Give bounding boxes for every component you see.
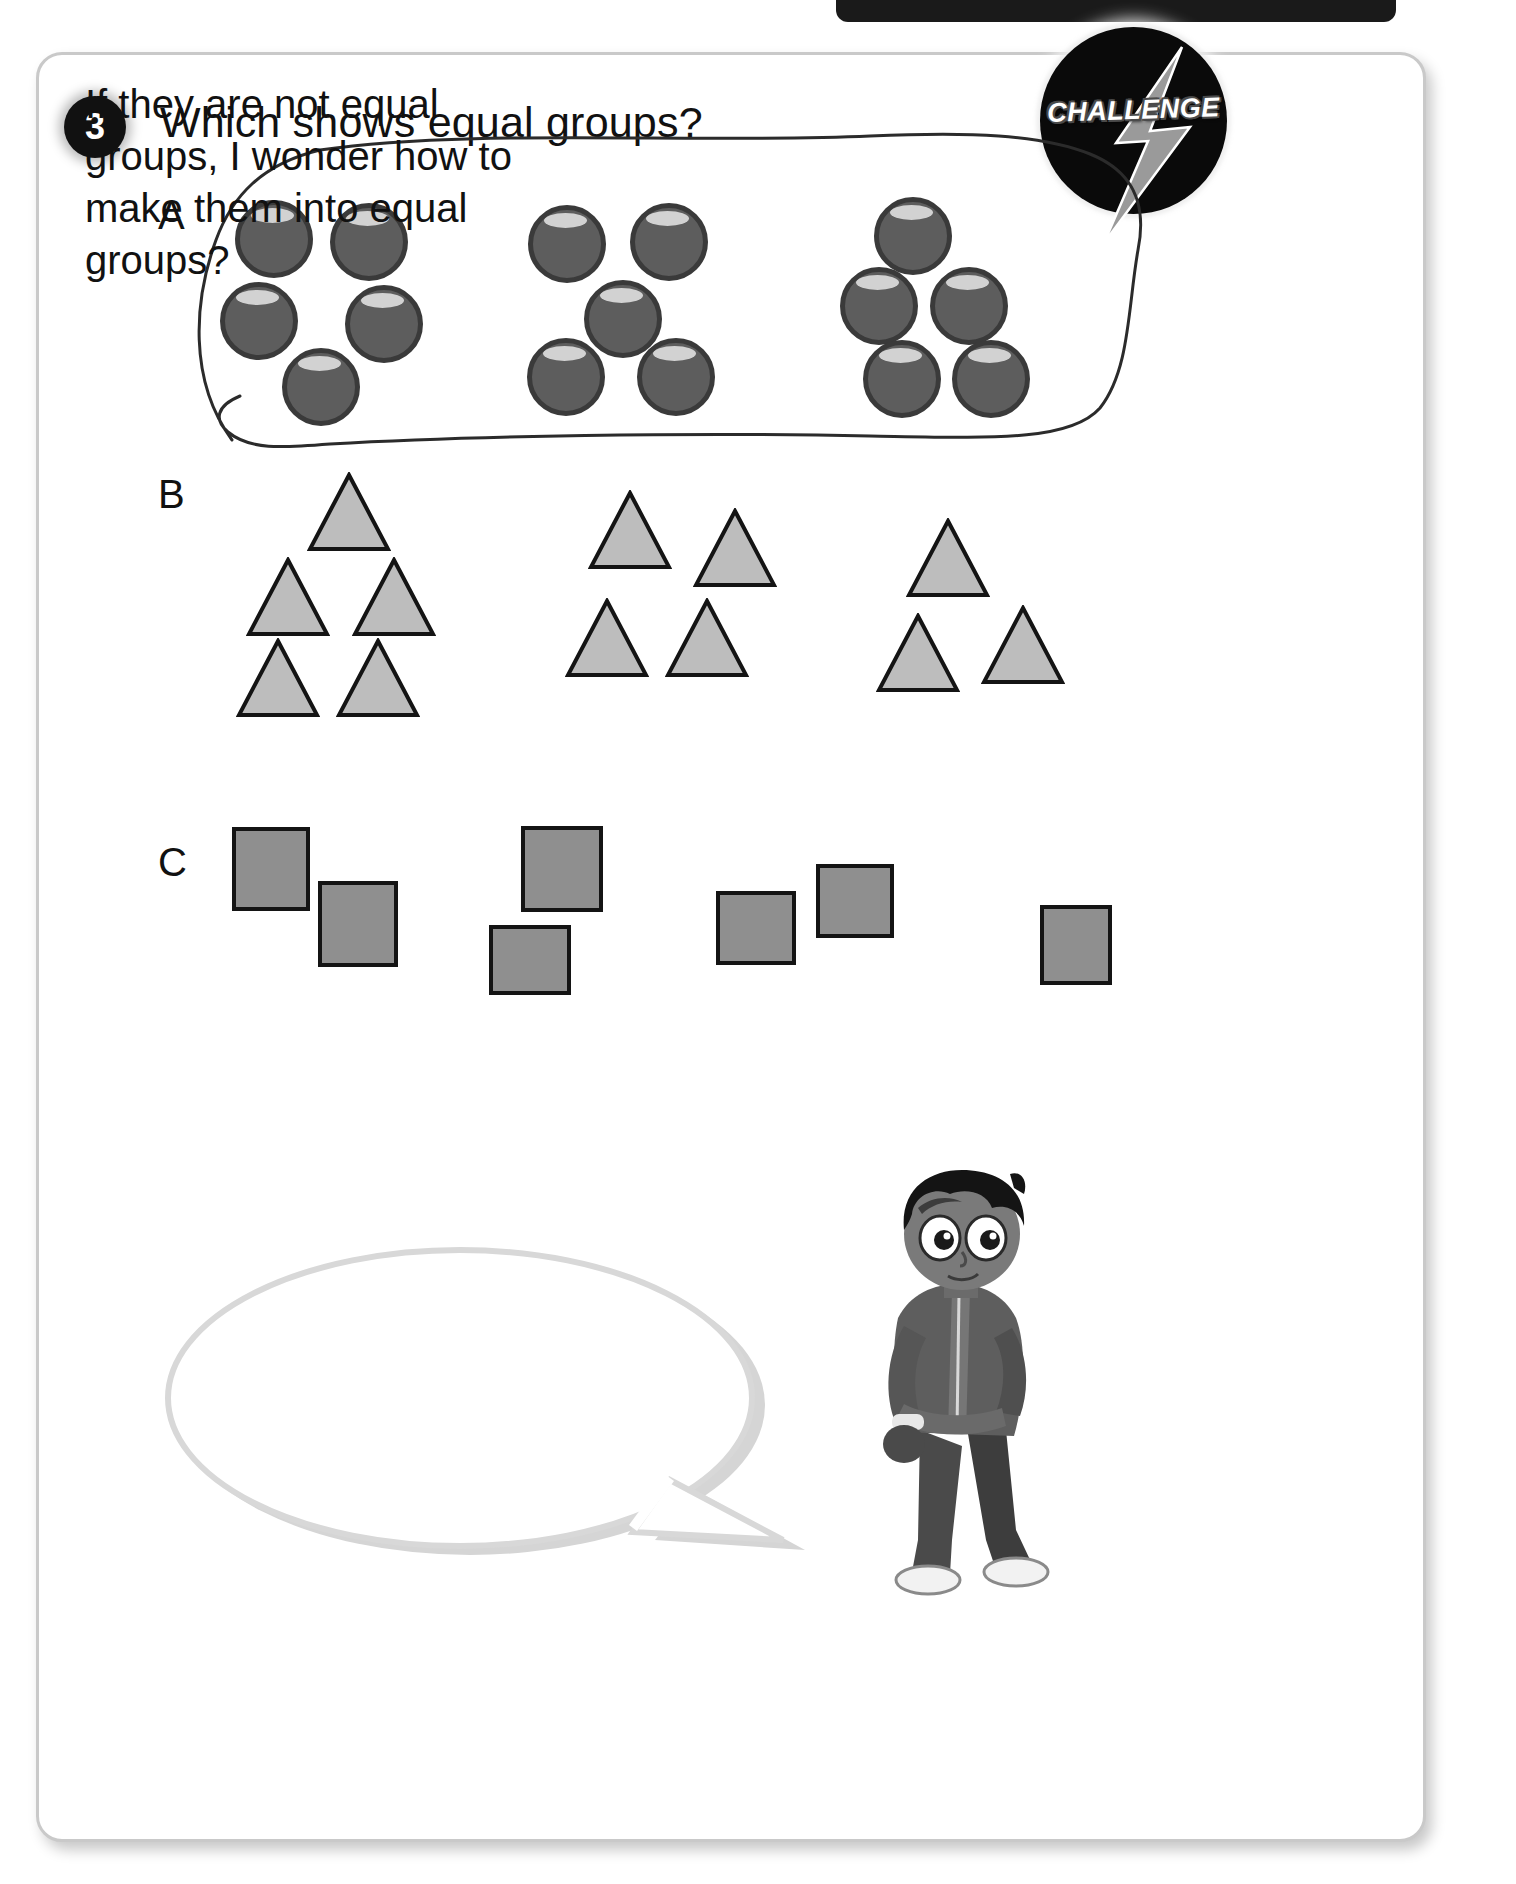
option-letter-b: B [158,472,185,517]
speech-bubble-text: If they are not equal groups, I wonder h… [85,78,565,286]
speech-bubble [155,1240,805,1580]
challenge-badge-label: CHALLENGE [1040,92,1228,130]
lightning-bolt-icon [1086,35,1206,250]
page-top-tab [836,0,1396,22]
challenge-badge: CHALLENGE [1040,27,1227,214]
option-letter-c: C [158,840,187,885]
boy-character-illustration [800,1168,1140,1598]
